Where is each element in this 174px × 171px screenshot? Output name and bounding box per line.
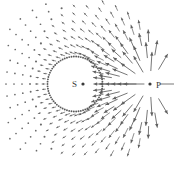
field-vector-arrow <box>95 15 98 19</box>
field-vector-dot <box>35 36 37 38</box>
field-vector-dot <box>6 95 8 97</box>
field-vector-arrow <box>85 126 90 130</box>
field-vector-arrow <box>115 24 119 31</box>
field-vector-dot <box>30 136 32 138</box>
field-vector-arrow <box>155 41 159 55</box>
ring-dot <box>92 62 94 64</box>
field-vector-dot <box>50 148 52 150</box>
field-vector-arrow <box>72 137 75 139</box>
ring-dot <box>101 78 103 80</box>
field-vector-dot <box>40 143 42 145</box>
field-vector-dot <box>25 24 27 26</box>
ring-dot <box>60 60 62 62</box>
field-vector-arrow <box>109 30 114 37</box>
ring-dot <box>94 102 96 104</box>
ring-dot <box>58 105 60 107</box>
ring-dot <box>82 109 84 111</box>
field-vector-arrow <box>134 56 143 72</box>
field-vector-arrow <box>93 71 103 74</box>
field-vector-arrow <box>99 67 110 71</box>
field-vector-arrow <box>96 33 101 38</box>
focus-point-marker <box>148 82 151 85</box>
ring-dot <box>78 56 80 58</box>
field-vector-arrow <box>76 120 81 123</box>
ring-dot <box>47 90 49 92</box>
field-vector-arrow <box>73 5 75 7</box>
ring-dot <box>99 72 101 74</box>
ring-dot <box>62 58 64 60</box>
field-vector-dot <box>21 114 23 116</box>
ring-dot <box>95 66 97 68</box>
field-vector-arrow <box>106 92 120 96</box>
field-vector-arrow <box>134 96 143 112</box>
field-vector-arrow <box>87 48 94 52</box>
field-vector-arrow <box>44 94 47 96</box>
ring-dot <box>51 98 53 100</box>
ring-dot <box>98 96 100 98</box>
field-vector-arrow <box>104 55 114 61</box>
field-vector-arrow <box>50 44 53 46</box>
ring-dot <box>47 83 49 85</box>
field-vector-arrow <box>95 149 98 153</box>
ring-dot <box>78 110 80 112</box>
ring-dot <box>54 102 56 104</box>
field-vector-dot <box>61 7 63 9</box>
field-vector-dot <box>21 53 23 55</box>
field-vector-arrow <box>104 107 114 113</box>
ring-dot <box>101 85 103 87</box>
field-vector-arrow <box>57 126 60 128</box>
ring-dot <box>88 60 90 62</box>
ring-dot <box>62 108 64 110</box>
ring-dot <box>66 109 68 111</box>
field-vector-arrow <box>42 78 45 80</box>
ring-dot <box>48 92 50 94</box>
field-vector-arrow <box>116 123 122 132</box>
ring-dot <box>80 56 82 58</box>
field-vector-dot <box>28 110 30 112</box>
ring-dot <box>101 90 103 92</box>
field-vector-dot <box>50 18 52 20</box>
field-vector-arrow <box>87 116 94 120</box>
field-vector-dot <box>27 122 29 124</box>
field-vector-arrow <box>52 107 56 109</box>
field-vector-arrow <box>147 127 151 139</box>
field-vector-arrow <box>91 51 99 55</box>
field-vector-arrow <box>99 97 110 101</box>
ring-dot <box>92 104 94 106</box>
field-vector-dot <box>48 11 50 13</box>
ring-dot <box>48 74 50 76</box>
field-vector-arrow <box>89 134 94 138</box>
ring-dot <box>50 96 52 98</box>
ring-dot <box>47 88 49 90</box>
field-vector-arrow <box>106 72 120 76</box>
field-vector-arrow <box>159 99 168 114</box>
field-vector-arrow <box>76 45 81 48</box>
field-vector-arrow <box>85 38 90 42</box>
ring-dot <box>88 106 90 108</box>
field-vector-arrow <box>50 123 53 125</box>
ring-dot <box>53 100 55 102</box>
field-vector-dot <box>27 44 29 46</box>
field-vector-dot <box>9 60 11 62</box>
ring-dot <box>100 92 102 94</box>
field-vector-dot <box>13 83 15 85</box>
field-vector-arrow <box>106 99 118 105</box>
field-vector-dot <box>33 49 35 51</box>
field-vector-arrow <box>86 5 88 8</box>
field-vector-arrow <box>78 37 83 40</box>
field-vector-arrow <box>54 33 57 35</box>
field-vector-arrow <box>138 33 142 45</box>
ring-dot <box>82 57 84 59</box>
ring-dot <box>80 110 82 112</box>
field-vector-arrow <box>91 123 97 128</box>
field-vector-dot <box>35 105 37 107</box>
field-vector-dot <box>6 71 8 73</box>
field-vector-arrow <box>38 112 40 114</box>
field-vector-dot <box>45 3 47 5</box>
field-vector-arrow <box>124 82 144 86</box>
ring-dot <box>84 58 86 60</box>
field-vector-arrow <box>82 21 85 24</box>
field-vector-arrow <box>64 128 68 130</box>
ring-dot <box>71 110 73 112</box>
field-vector-arrow <box>150 97 154 115</box>
